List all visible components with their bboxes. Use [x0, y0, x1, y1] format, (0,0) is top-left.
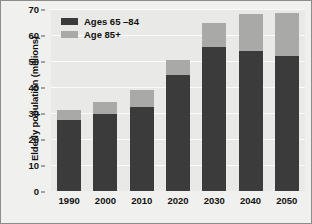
- y-tick-20: 20: [28, 134, 45, 145]
- plot-area: Ages 65 –84 Age 85+: [51, 9, 305, 191]
- bar-segment-age-85-plus-2010: [130, 90, 154, 107]
- x-tick-2020: 2020: [166, 195, 190, 206]
- y-tick-30: 30: [28, 108, 45, 119]
- bar-segment-age-85-plus-2050: [275, 13, 299, 56]
- bar-2050: [275, 9, 299, 191]
- bar-segment-ages-65-84-2020: [166, 75, 190, 191]
- legend-swatch-ages-65-84: [61, 18, 78, 25]
- x-tick-2050: 2050: [275, 195, 299, 206]
- y-tick-10: 10: [28, 160, 45, 171]
- y-tick-50: 50: [28, 56, 45, 67]
- x-tick-2030: 2030: [202, 195, 226, 206]
- bar-segment-age-85-plus-2000: [93, 102, 117, 114]
- legend-item-ages-65-84: Ages 65 –84: [61, 15, 139, 28]
- y-axis-tick-labels: 010203040506070: [19, 9, 45, 191]
- x-tick-2000: 2000: [93, 195, 117, 206]
- y-tick-70: 70: [28, 4, 45, 15]
- x-tick-2010: 2010: [130, 195, 154, 206]
- legend-item-age-85-plus: Age 85+: [61, 28, 139, 41]
- x-tick-1990: 1990: [57, 195, 81, 206]
- chart-figure: Elderly population (millions) 0102030405…: [0, 0, 312, 224]
- legend-swatch-age-85-plus: [61, 31, 78, 38]
- y-tick-60: 60: [28, 30, 45, 41]
- bar-segment-age-85-plus-2020: [166, 60, 190, 76]
- bar-segment-ages-65-84-2040: [239, 51, 263, 191]
- x-tick-2040: 2040: [239, 195, 263, 206]
- legend-label-ages-65-84: Ages 65 –84: [84, 16, 139, 27]
- legend: Ages 65 –84 Age 85+: [58, 14, 142, 42]
- bar-segment-ages-65-84-1990: [57, 120, 81, 192]
- bar-segment-ages-65-84-2050: [275, 56, 299, 191]
- y-tick-0: 0: [34, 186, 45, 197]
- bar-2020: [166, 9, 190, 191]
- bar-segment-age-85-plus-1990: [57, 110, 81, 119]
- bar-2040: [239, 9, 263, 191]
- legend-label-age-85-plus: Age 85+: [84, 29, 121, 40]
- y-tick-40: 40: [28, 82, 45, 93]
- bar-segment-ages-65-84-2000: [93, 114, 117, 191]
- bar-segment-ages-65-84-2010: [130, 107, 154, 192]
- bar-segment-age-85-plus-2030: [202, 23, 226, 46]
- bar-2030: [202, 9, 226, 191]
- bar-segment-age-85-plus-2040: [239, 14, 263, 50]
- x-axis-tick-labels: 1990200020102020203020402050: [51, 195, 305, 206]
- bar-segment-ages-65-84-2030: [202, 47, 226, 191]
